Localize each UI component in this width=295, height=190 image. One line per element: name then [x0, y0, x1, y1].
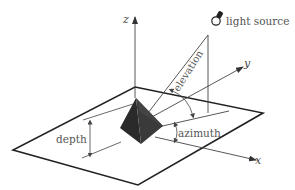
- depth-label: depth: [56, 134, 87, 145]
- z-axis-label: z: [123, 14, 129, 25]
- x-axis: [155, 137, 256, 160]
- azimuth-label: azimuth: [178, 128, 221, 139]
- y-axis-label: y: [244, 58, 250, 69]
- light-source-geometry-diagram: z y x light source elevation azimuth dep…: [0, 0, 295, 190]
- elevation-arc: [171, 90, 193, 116]
- depth-guide-top: [83, 104, 133, 120]
- light-source-label: light source: [226, 16, 289, 27]
- depth-guide-bottom: [82, 142, 121, 158]
- azimuth-arc: [175, 124, 177, 141]
- diagram-graphics: [0, 0, 295, 190]
- light-bulb-icon: [212, 11, 224, 26]
- azimuth-projection: [158, 111, 229, 127]
- x-axis-label: x: [255, 155, 261, 166]
